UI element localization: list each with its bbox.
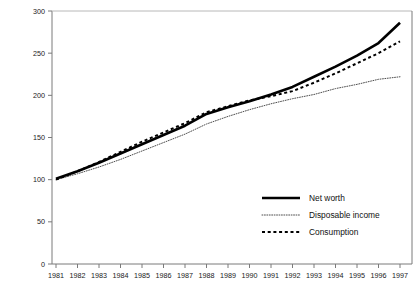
y-axis-tick-labels: 050100150200250300 (33, 7, 45, 269)
x-tick-label: 1992 (285, 271, 301, 280)
x-tick-label: 1995 (349, 271, 365, 280)
plot-area (52, 11, 412, 264)
x-tick-label: 1983 (91, 271, 107, 280)
y-tick-label: 50 (37, 217, 45, 226)
line-chart: 050100150200250300 198119821983198419851… (0, 0, 420, 291)
x-tick-label: 1986 (156, 271, 172, 280)
x-tick-label: 1988 (199, 271, 215, 280)
x-axis-ticks (56, 264, 400, 268)
chart-container: 050100150200250300 198119821983198419851… (0, 0, 420, 291)
x-tick-label: 1982 (70, 271, 86, 280)
x-tick-label: 1985 (134, 271, 150, 280)
legend-label-disposable-income: Disposable income (309, 210, 380, 220)
y-tick-label: 250 (33, 49, 45, 58)
x-tick-label: 1990 (242, 271, 258, 280)
x-tick-label: 1991 (263, 271, 279, 280)
x-tick-label: 1984 (113, 271, 129, 280)
y-tick-label: 100 (33, 175, 45, 184)
y-tick-label: 0 (41, 260, 45, 269)
y-tick-label: 200 (33, 91, 45, 100)
y-axis-ticks (48, 11, 52, 264)
x-tick-label: 1987 (177, 271, 193, 280)
x-tick-label: 1981 (48, 271, 64, 280)
x-tick-label: 1996 (371, 271, 387, 280)
y-tick-label: 300 (33, 7, 45, 16)
legend-label-consumption: Consumption (309, 227, 359, 237)
x-axis-tick-labels: 1981198219831984198519861987198819891990… (48, 271, 408, 280)
x-tick-label: 1993 (306, 271, 322, 280)
y-tick-label: 150 (33, 133, 45, 142)
x-tick-label: 1997 (392, 271, 408, 280)
x-tick-label: 1989 (220, 271, 236, 280)
x-tick-label: 1994 (328, 271, 344, 280)
legend-label-net-worth: Net worth (309, 193, 345, 203)
